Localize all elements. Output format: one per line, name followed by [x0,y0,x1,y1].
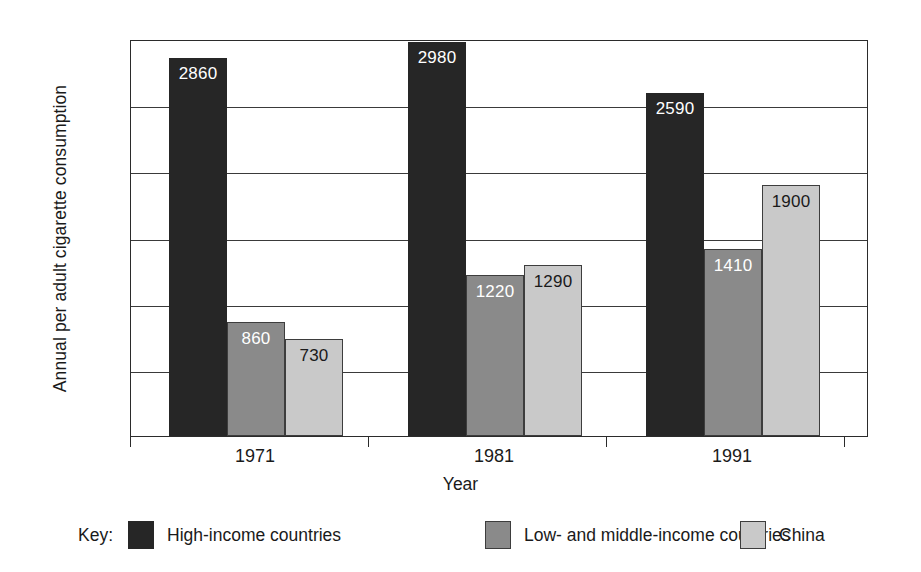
bar-value-label: 1410 [705,257,761,274]
gray-swatch [485,521,511,549]
gridline [131,240,867,241]
gridline [131,107,867,108]
bar-value-label: 2590 [646,100,704,117]
x-tick-mark [130,437,131,447]
bar: 1900 [762,185,820,436]
bar-value-label: 1220 [467,283,523,300]
bar: 2590 [646,93,704,436]
bar-value-label: 860 [228,330,284,347]
gridline [131,173,867,174]
bar: 1290 [524,265,582,436]
bar-value-label: 2980 [408,49,466,66]
y-axis-title: Annual per adult cigarette consumption [50,29,71,449]
bar: 730 [285,339,343,436]
x-category-label: 1981 [377,446,611,467]
bar-value-label: 1900 [763,193,819,210]
black-swatch [128,521,154,549]
legend-item-label: China [779,525,825,546]
legend-item-label: High-income countries [167,525,341,546]
bar-value-label: 2860 [169,65,227,82]
x-category-label: 1991 [615,446,849,467]
legend-key-label: Key: [78,518,113,552]
plot-area: 2860860730298012201290259014101900 [130,40,868,437]
bar-value-label: 1290 [525,273,581,290]
light-gray-swatch [740,521,766,549]
bar: 1220 [466,275,524,436]
bar-value-label: 730 [286,347,342,364]
bar: 860 [227,322,285,436]
bar: 2860 [169,58,227,436]
legend-item: China [740,518,825,552]
bar: 2980 [408,42,466,436]
legend-item: High-income countries [128,518,341,552]
bar: 1410 [704,249,762,436]
chart-legend: Key: High-income countriesLow- and middl… [0,518,921,552]
chart-figure: Annual per adult cigarette consumption 0… [0,0,921,572]
x-axis-title: Year [0,474,921,495]
x-category-label: 1971 [138,446,372,467]
